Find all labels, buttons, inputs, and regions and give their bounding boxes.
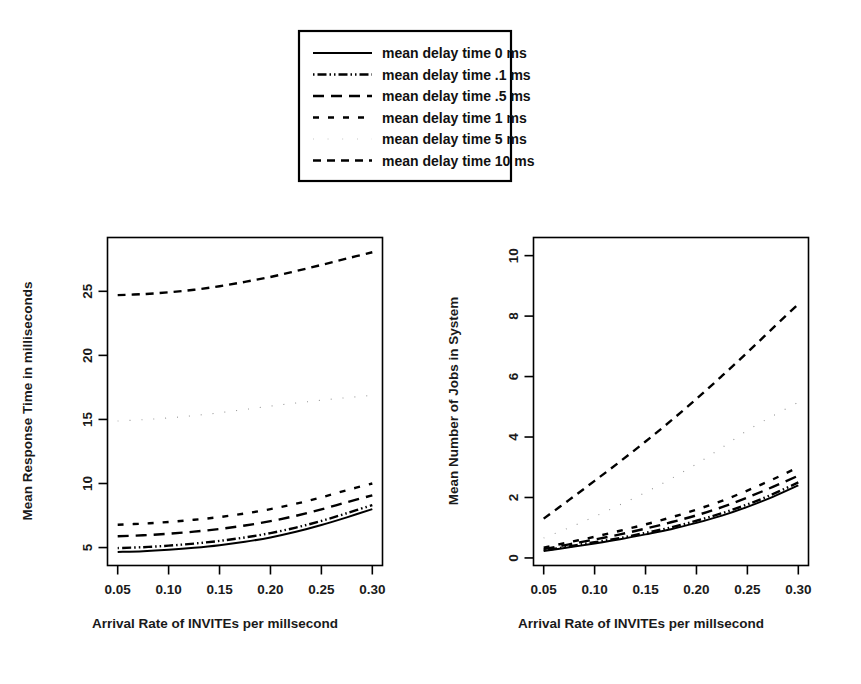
left-y-tick-label-0: 5	[80, 543, 95, 551]
left-x-tick-label-2: 0.15	[206, 582, 233, 597]
legend-label-0: mean delay time 0 ms	[382, 45, 527, 61]
legend-label-3: mean delay time 1 ms	[382, 110, 527, 126]
right-x-tick-label-4: 0.25	[734, 582, 761, 597]
plot-legend: mean delay time 0 msmean delay time .1 m…	[299, 31, 535, 181]
right-y-tick-label-2: 4	[506, 433, 521, 441]
right-y-tick-label-5: 10	[506, 248, 521, 263]
legend-label-1: mean delay time .1 ms	[382, 67, 531, 83]
left-x-tick-label-0: 0.05	[105, 582, 132, 597]
legend-label-4: mean delay time 5 ms	[382, 131, 527, 147]
left-y-tick-label-4: 25	[80, 283, 95, 299]
right-x-tick-label-2: 0.15	[632, 582, 659, 597]
right-x-axis-label: Arrival Rate of INVITEs per millsecond	[518, 616, 764, 631]
legend-label-2: mean delay time .5 ms	[382, 88, 531, 104]
left-x-tick-label-4: 0.25	[308, 582, 335, 597]
right-x-tick-label-0: 0.05	[531, 582, 558, 597]
right-y-tick-label-0: 0	[506, 554, 521, 562]
left-y-axis-label: Mean Response Time in milliseconds	[20, 281, 35, 520]
legend-label-5: mean delay time 10 ms	[382, 153, 535, 169]
right-y-tick-label-1: 2	[506, 494, 521, 502]
left-y-tick-label-3: 20	[80, 348, 95, 363]
left-x-tick-label-3: 0.20	[257, 582, 283, 597]
right-x-tick-label-1: 0.10	[581, 582, 607, 597]
right-x-tick-label-5: 0.30	[785, 582, 811, 597]
left-y-tick-label-2: 15	[80, 411, 95, 427]
left-x-tick-label-5: 0.30	[359, 582, 385, 597]
figure-canvas: mean delay time 0 msmean delay time .1 m…	[0, 0, 861, 684]
right-y-axis-label: Mean Number of Jobs in System	[446, 297, 461, 506]
left-y-tick-label-1: 10	[80, 476, 95, 491]
right-y-tick-label-4: 8	[506, 312, 521, 320]
left-x-axis-label: Arrival Rate of INVITEs per millsecond	[92, 616, 338, 631]
right-x-tick-label-3: 0.20	[683, 582, 709, 597]
left-x-tick-label-1: 0.10	[155, 582, 181, 597]
right-y-tick-label-3: 6	[506, 372, 521, 380]
